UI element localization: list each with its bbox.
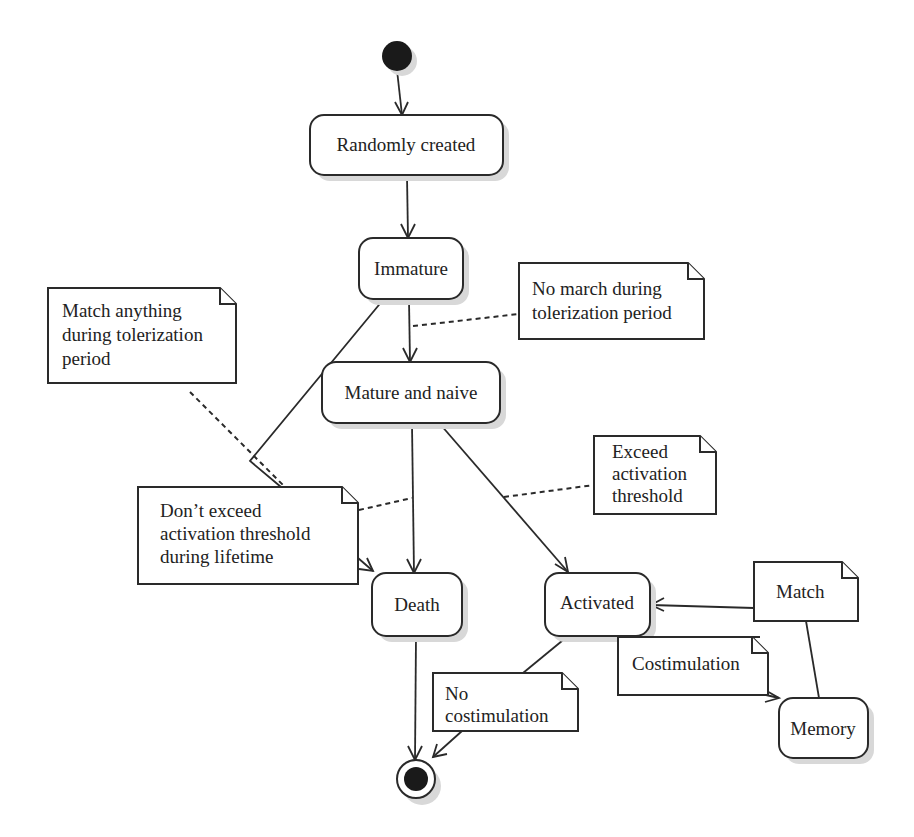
edge-immature-to-mature xyxy=(409,300,410,362)
svg-text:Costimulation: Costimulation xyxy=(632,653,740,674)
state-memory[interactable]: Memory xyxy=(779,698,874,764)
svg-text:costimulation: costimulation xyxy=(445,705,549,726)
state-diagram: Randomly created Immature Mature and nai… xyxy=(0,0,914,837)
state-mature-and-naive[interactable]: Mature and naive xyxy=(322,362,506,429)
edge-match-to-activated xyxy=(651,605,754,608)
initial-node-icon xyxy=(382,41,412,71)
edge-mature-to-activated xyxy=(440,424,568,572)
state-randomly-created[interactable]: Randomly created xyxy=(310,115,509,181)
svg-text:Activated: Activated xyxy=(560,592,634,613)
note-connector-no-march xyxy=(413,314,519,326)
svg-text:Match: Match xyxy=(776,581,825,602)
svg-text:Mature and naive: Mature and naive xyxy=(345,382,478,403)
svg-text:Randomly created: Randomly created xyxy=(337,134,476,155)
edge-no-costimulation-to-final xyxy=(433,731,462,757)
svg-text:Death: Death xyxy=(394,594,440,615)
note-connector-exceed xyxy=(504,485,594,497)
note-match-anything: Match anything during tolerization perio… xyxy=(48,288,236,383)
state-death[interactable]: Death xyxy=(372,573,468,642)
svg-text:Don’t exceed: Don’t exceed xyxy=(160,500,262,521)
edge-activated-to-no-costimulation xyxy=(523,636,568,673)
edge-randomly-created-to-immature xyxy=(407,176,408,238)
svg-text:Immature: Immature xyxy=(374,258,448,279)
svg-text:activation: activation xyxy=(612,463,687,484)
svg-text:activation threshold: activation threshold xyxy=(160,523,311,544)
edge-match-to-memory xyxy=(806,621,819,698)
state-activated[interactable]: Activated xyxy=(545,573,656,642)
note-connector-dont-exceed xyxy=(359,498,412,510)
edge-mature-to-death xyxy=(412,424,414,573)
svg-text:Exceed: Exceed xyxy=(612,441,668,462)
note-no-costimulation: No costimulation xyxy=(433,673,578,731)
svg-text:threshold: threshold xyxy=(612,485,683,506)
svg-text:during lifetime: during lifetime xyxy=(160,546,273,567)
svg-text:No march during: No march during xyxy=(532,278,662,299)
state-immature[interactable]: Immature xyxy=(359,238,469,305)
svg-text:tolerization period: tolerization period xyxy=(532,302,672,323)
svg-text:Memory: Memory xyxy=(790,718,856,739)
note-connector-match-anything xyxy=(190,392,285,487)
final-node-inner-icon xyxy=(404,767,428,791)
note-exceed-activation-threshold: Exceed activation threshold xyxy=(594,436,716,514)
edge-death-to-final xyxy=(415,636,416,760)
note-dont-exceed-activation-threshold: Don’t exceed activation threshold during… xyxy=(138,487,358,584)
svg-text:during tolerization: during tolerization xyxy=(62,324,203,345)
note-match: Match xyxy=(754,562,858,621)
svg-text:Match anything: Match anything xyxy=(62,300,182,321)
svg-text:period: period xyxy=(62,348,111,369)
note-costimulation: Costimulation xyxy=(618,637,768,695)
svg-text:No: No xyxy=(445,683,468,704)
note-no-march: No march during tolerization period xyxy=(519,263,704,339)
